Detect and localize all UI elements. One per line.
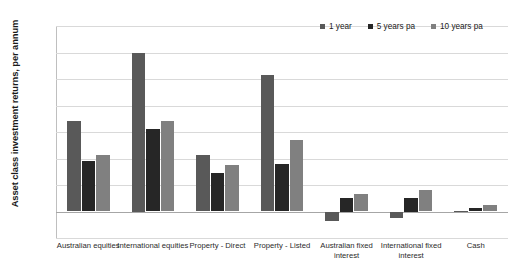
bar-group: [250, 26, 315, 238]
legend-item: 10 years pa: [431, 22, 483, 31]
bar: [340, 198, 354, 211]
bar: [261, 75, 275, 211]
bar-group: [443, 26, 508, 238]
x-axis-category-label: Australian fixed interest: [310, 241, 383, 260]
bar-group: [314, 26, 379, 238]
x-axis-category-label: Australian equities: [52, 241, 125, 251]
bar-group: [121, 26, 186, 238]
bar: [454, 211, 468, 212]
bar: [132, 53, 146, 212]
bar: [67, 121, 81, 211]
plot-area: 35.0%30.0%25.0%20.0%15.0%10.0%5.0%0.0%-5…: [56, 26, 508, 238]
x-axis-category-label: International equities: [117, 241, 190, 251]
bar: [225, 165, 239, 212]
bar: [290, 140, 304, 212]
y-axis-title: Asset class investment returns, per annu…: [9, 14, 20, 214]
bar: [161, 121, 175, 211]
bar: [404, 198, 418, 211]
x-axis-category-label: Property - Direct: [181, 241, 254, 251]
bar: [275, 164, 289, 212]
bar-group: [379, 26, 444, 238]
legend-item: 1 year: [320, 22, 352, 31]
legend-swatch-icon: [320, 24, 325, 29]
bar: [196, 155, 210, 212]
bar-group: [185, 26, 250, 238]
x-axis-category-label: Property - Listed: [246, 241, 319, 251]
gridline: [56, 238, 508, 239]
bar: [211, 173, 225, 212]
bar: [82, 161, 96, 212]
bar: [146, 129, 160, 211]
x-axis-category-label: Cash: [439, 241, 512, 251]
x-axis-category-label: International fixed interest: [375, 241, 448, 260]
bar-group: [56, 26, 121, 238]
bar: [390, 212, 404, 219]
bar: [469, 208, 483, 211]
bar: [419, 190, 433, 211]
bar-chart: Asset class investment returns, per annu…: [0, 0, 512, 270]
bar: [325, 212, 339, 222]
legend-swatch-icon: [368, 24, 373, 29]
chart-legend: 1 year5 years pa10 years pa: [320, 22, 483, 31]
legend-label: 10 years pa: [440, 22, 483, 31]
bar: [354, 194, 368, 211]
bar: [483, 205, 497, 212]
legend-item: 5 years pa: [368, 22, 415, 31]
legend-label: 1 year: [329, 22, 352, 31]
legend-label: 5 years pa: [377, 22, 415, 31]
bar: [96, 155, 110, 211]
legend-swatch-icon: [431, 24, 436, 29]
